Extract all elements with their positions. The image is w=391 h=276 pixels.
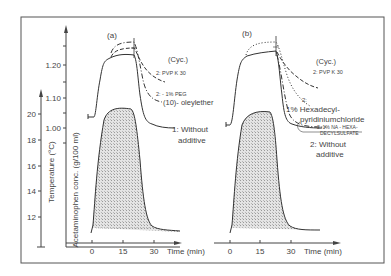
b-hexa-label-1: 1% Hexadecyl- — [286, 105, 340, 114]
b-pvp-curve — [277, 52, 318, 88]
a-peg-label-1: 2: - 1% PEG — [156, 91, 187, 97]
b-cyc-label: (Cyc.) — [316, 57, 336, 66]
concentration-axis-label: Acetaminophen conc. (g/100 ml) — [71, 132, 80, 248]
panel-b: (b) 0 15 30 Time (min) (Cyc.) 2: PVP K 3… — [214, 29, 365, 256]
b-pvp-label: 2: PVP K 30 — [313, 69, 343, 75]
b-x-tick-0: 0 — [228, 247, 233, 256]
a-x-label: Time (min) — [167, 247, 205, 256]
a-x-tick-15: 15 — [119, 247, 128, 256]
temperature-axis-label: Temperature (°C) — [47, 141, 56, 203]
temp-tick-14: 14 — [27, 187, 36, 196]
chart-canvas: 20 18 16 14 12 Temperature (°C) 1.20 1.1… — [0, 0, 391, 276]
conc-tick-1-10: 1.10 — [45, 94, 61, 103]
conc-tick-1-20: 1.20 — [45, 61, 61, 70]
temp-tick-18: 18 — [27, 136, 36, 145]
b-na-label-2: DECYLSULFATE — [320, 130, 359, 136]
a-without-label-1: 1: Without — [172, 125, 209, 134]
b-hexa-number: 2: — [302, 97, 307, 103]
b-hexa-label-2: pyridiniumchloride — [300, 115, 365, 124]
a-without-label-2: additive — [178, 136, 206, 145]
a-peg-label-2: (10)- oleylether — [163, 98, 214, 107]
b-without-label-2: additive — [316, 150, 344, 159]
panel-a-label: (a) — [107, 31, 117, 40]
a-peg-curve — [111, 42, 162, 102]
b-x-tick-15: 15 — [256, 247, 265, 256]
b-without-label-1: 2: Without — [310, 140, 347, 149]
arrow-up-icon — [64, 25, 68, 33]
panel-a: (a) 0 15 30 Time (min) (Cyc.) 2: PVP K 3… — [66, 31, 214, 256]
temp-tick-16: 16 — [27, 162, 36, 171]
a-pvp-label: 2: PVP K 30 — [156, 70, 186, 76]
a-x-tick-0: 0 — [90, 247, 95, 256]
b-x-tick-30: 30 — [287, 247, 296, 256]
b-temperature-area — [231, 112, 320, 230]
a-x-tick-30: 30 — [150, 247, 159, 256]
arrow-right-icon — [174, 241, 182, 245]
temperature-axis: 20 18 16 14 12 Temperature (°C) — [27, 89, 56, 247]
temp-tick-20: 20 — [27, 110, 36, 119]
temp-tick-12: 12 — [27, 213, 36, 222]
b-hexadecylpyridinium-curve — [246, 42, 310, 106]
b-x-label: Time (min) — [304, 247, 342, 256]
arrow-right-icon — [333, 241, 341, 245]
a-cyc-label: (Cyc.) — [168, 55, 188, 64]
arrow-up-icon — [39, 89, 43, 97]
conc-tick-1-00: 1.00 — [45, 124, 61, 133]
panel-b-label: (b) — [242, 29, 252, 38]
